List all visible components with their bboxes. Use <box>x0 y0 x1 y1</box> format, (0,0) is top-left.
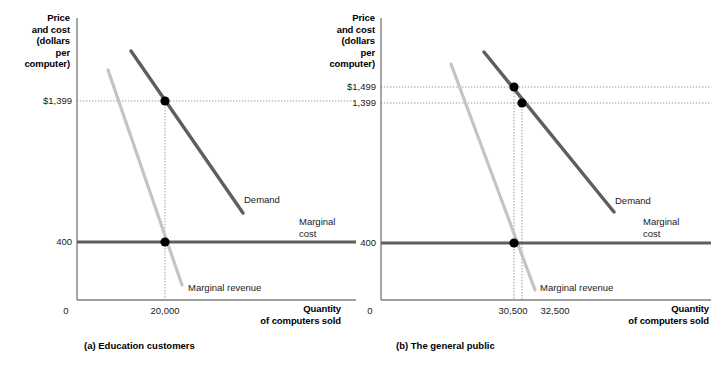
point-alternate-price <box>517 98 526 107</box>
marginal-cost-curve-label: Marginal cost <box>643 216 679 239</box>
y-axis-title-line-2: and cost <box>295 24 375 36</box>
panel-b-caption: (b) The general public <box>396 340 495 351</box>
x-axis-title: Quantity of computers sold <box>568 303 709 326</box>
y-tick-label-1399: 1,399 <box>295 97 376 108</box>
point-profit-max <box>509 82 518 91</box>
y-axis-title-line-5: computer) <box>0 58 70 70</box>
y-tick-label-1499: $1,499 <box>295 81 376 92</box>
demand-curve <box>484 52 614 212</box>
y-axis-title: Price and cost (dollars per computer) <box>295 12 375 70</box>
y-axis-title-line-4: per <box>0 47 70 59</box>
marginal-revenue-curve <box>108 70 182 285</box>
y-axis-title-line-5: computer) <box>295 58 375 70</box>
x-tick-label-origin: 0 <box>56 305 76 316</box>
demand-curve-label: Demand <box>615 195 651 207</box>
y-axis-title-line-2: and cost <box>0 24 70 36</box>
y-tick-label-1399: $1,399 <box>0 95 72 106</box>
demand-curve-label: Demand <box>244 194 280 206</box>
y-axis-title-line-3: (dollars <box>0 35 70 47</box>
x-axis-title-line-1: Quantity <box>200 303 341 315</box>
y-axis-title-line-3: (dollars <box>295 35 375 47</box>
x-tick-label-origin: 0 <box>360 305 380 316</box>
panel-general-public: Price and cost (dollars per computer) $1… <box>355 0 711 373</box>
marginal-cost-label-line-1: Marginal <box>643 216 679 228</box>
panel-a-caption: (a) Education customers <box>84 340 195 351</box>
point-demand-price <box>160 96 169 105</box>
y-axis-title-line-4: per <box>295 47 375 59</box>
y-tick-label-400: 400 <box>0 236 72 247</box>
y-tick-label-400: 400 <box>295 237 376 248</box>
marginal-cost-label-line-1: Marginal <box>299 216 335 228</box>
y-axis-title-line-1: Price <box>0 12 70 24</box>
y-axis-title-line-1: Price <box>295 12 375 24</box>
marginal-cost-curve-label: Marginal cost <box>299 216 335 239</box>
marginal-revenue-curve-label: Marginal revenue <box>188 282 261 294</box>
x-axis-title-line-2: of computers sold <box>568 315 709 327</box>
x-tick-label-20000: 20,000 <box>135 305 195 316</box>
x-axis-title: Quantity of computers sold <box>200 303 341 326</box>
marginal-cost-label-line-2: cost <box>643 228 679 240</box>
marginal-revenue-curve-label: Marginal revenue <box>540 282 613 294</box>
x-axis-title-line-2: of computers sold <box>200 315 341 327</box>
point-mr-mc-intersection <box>160 237 169 246</box>
x-axis-title-line-1: Quantity <box>568 303 709 315</box>
y-axis-title: Price and cost (dollars per computer) <box>0 12 70 70</box>
point-mr-mc-intersection <box>509 238 518 247</box>
